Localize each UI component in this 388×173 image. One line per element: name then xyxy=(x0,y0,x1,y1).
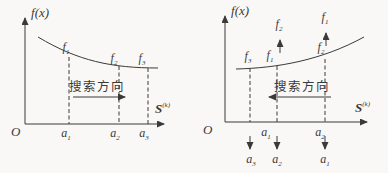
right-a1-relabel: a1 xyxy=(320,153,330,168)
left-a2-label: a2 xyxy=(110,127,120,142)
search-direction-figure: f(x) O S(k) f1 f2 f3 搜索方向 a1 a2 a3 f(x) … xyxy=(0,0,388,173)
left-f1-label: f1 xyxy=(63,41,70,56)
left-f2-label: f2 xyxy=(111,52,118,67)
right-f3-label: f3 xyxy=(245,50,252,65)
right-x-axis-label: S(k) xyxy=(355,101,370,114)
right-a2-axis-label: a2 xyxy=(315,126,325,141)
right-a1-axis-label: a1 xyxy=(261,126,271,141)
left-a1-label: a1 xyxy=(61,127,71,142)
left-x-axis-label: S(k) xyxy=(155,102,170,115)
right-f2-raised-label: f2 xyxy=(276,18,283,33)
right-search-direction-label: 搜索方向 xyxy=(274,81,330,94)
left-a3-label: a3 xyxy=(139,127,149,142)
right-a2-relabel: a2 xyxy=(272,153,282,168)
right-origin-label: O xyxy=(203,123,212,136)
right-f1-label: f1 xyxy=(267,49,274,64)
left-search-direction-label: 搜索方向 xyxy=(69,81,125,94)
right-y-axis-label: f(x) xyxy=(231,4,249,17)
left-y-axis-label: f(x) xyxy=(31,6,49,19)
right-a3-relabel: a3 xyxy=(246,153,256,168)
left-panel xyxy=(25,18,164,124)
right-function-curve xyxy=(236,37,364,69)
right-f2-label: f2 xyxy=(318,41,325,56)
left-origin-label: O xyxy=(11,125,20,138)
right-f1-raised-label: f1 xyxy=(322,11,329,26)
left-f3-label: f3 xyxy=(139,52,146,67)
